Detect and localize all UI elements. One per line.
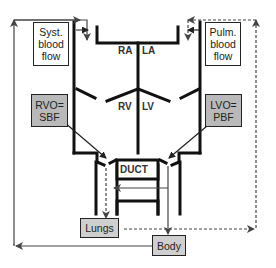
pulm-line-1: Pulm. [210, 26, 237, 38]
label-rv: RV [118, 101, 132, 112]
label-ra: RA [118, 45, 132, 56]
label-lv: LV [142, 101, 154, 112]
rvo-line-2: SBF [39, 111, 59, 123]
pulm-line-3: flow [214, 50, 233, 62]
syst-line-1: Syst. [39, 26, 62, 38]
lungs-box: Lungs [80, 218, 119, 238]
lvo-line-1: LVO= [210, 99, 236, 111]
rvo-sbf-box: RVO= SBF [31, 94, 68, 127]
pulm-blood-flow-box: Pulm. blood flow [205, 22, 241, 66]
syst-blood-flow-box: Syst. blood flow [33, 22, 69, 66]
syst-line-3: flow [42, 50, 61, 62]
label-duct: DUCT [120, 164, 148, 175]
syst-line-2: blood [38, 38, 64, 50]
lvo-pbf-box: LVO= PBF [205, 94, 242, 127]
heart-outline [74, 22, 200, 214]
body-box: Body [152, 235, 186, 256]
pulm-line-2: blood [210, 38, 236, 50]
label-la: LA [142, 45, 155, 56]
rvo-line-1: RVO= [35, 99, 64, 111]
lvo-line-2: PBF [213, 111, 233, 123]
